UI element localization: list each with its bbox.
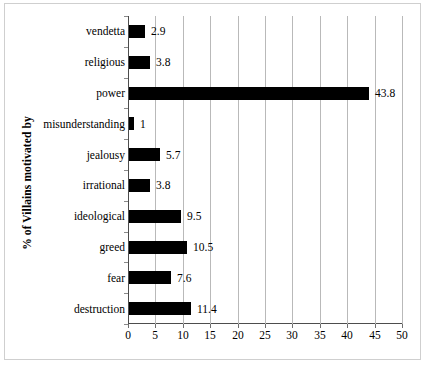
y-axis-tick	[124, 232, 128, 233]
bar-value-label: 1	[140, 118, 146, 130]
x-axis-tick	[210, 324, 211, 328]
x-axis-tick	[183, 324, 184, 328]
gridline	[210, 16, 211, 324]
x-axis-tick-label: 40	[341, 329, 353, 342]
category-label-greed: greed	[34, 241, 125, 253]
bar-value-label: 9.5	[187, 210, 201, 222]
x-axis-tick	[238, 324, 239, 328]
bar-value-label: 5.7	[166, 149, 180, 161]
bar	[129, 271, 171, 284]
x-axis-tick-label: 25	[259, 329, 271, 342]
bar-value-label: 2.9	[151, 25, 165, 37]
x-axis-tick-labels: 05101520253035404550	[128, 329, 403, 345]
x-axis-tick-label: 30	[286, 329, 298, 342]
x-axis-tick-label: 5	[152, 329, 158, 342]
x-axis-tick	[402, 324, 403, 328]
gridline	[347, 16, 348, 324]
y-axis-tick	[124, 47, 128, 48]
x-axis-tick	[320, 324, 321, 328]
gridline	[320, 16, 321, 324]
bar-value-label: 7.6	[177, 272, 191, 284]
category-label-religious: religious	[34, 56, 125, 68]
category-label-fear: fear	[34, 272, 125, 284]
x-axis-tick	[375, 324, 376, 328]
y-axis-tick	[124, 78, 128, 79]
x-axis-tick-label: 15	[204, 329, 216, 342]
bar-value-label: 3.8	[156, 179, 170, 191]
bar	[129, 25, 145, 38]
gridline	[265, 16, 266, 324]
y-axis-tick	[124, 170, 128, 171]
x-axis-tick-label: 20	[232, 329, 244, 342]
bar	[129, 241, 187, 254]
gridline	[292, 16, 293, 324]
bar	[129, 87, 369, 100]
x-axis-tick-label: 35	[314, 329, 326, 342]
x-axis-tick	[155, 324, 156, 328]
bar-value-label: 3.8	[156, 56, 170, 68]
y-axis-tick	[124, 16, 128, 17]
y-axis-tick	[124, 139, 128, 140]
bar	[129, 117, 134, 130]
category-label-destruction: destruction	[34, 303, 125, 315]
x-axis-tick	[292, 324, 293, 328]
category-axis-labels: vendettareligiouspowermisunderstandingje…	[34, 16, 125, 324]
category-label-ideological: ideological	[34, 210, 125, 222]
y-axis-tick	[124, 108, 128, 109]
y-axis-tick	[124, 293, 128, 294]
x-axis-tick-label: 50	[396, 329, 408, 342]
category-label-jealousy: jealousy	[34, 149, 125, 161]
category-label-vendetta: vendetta	[34, 25, 125, 37]
bar	[129, 148, 160, 161]
gridline	[238, 16, 239, 324]
y-axis-tick	[124, 201, 128, 202]
bar-chart-figure: % of Villains motivated by vendettarelig…	[0, 0, 425, 366]
bar-value-label: 43.8	[375, 87, 395, 99]
y-axis-tick	[124, 324, 128, 325]
x-axis-tick-label: 0	[125, 329, 131, 342]
plot-area: 2.93.843.815.73.89.510.57.611.4	[128, 16, 402, 324]
bar	[129, 210, 181, 223]
x-axis-tick	[347, 324, 348, 328]
x-axis-tick	[128, 324, 129, 328]
gridline	[402, 16, 403, 324]
category-label-misunderstanding: misunderstanding	[34, 118, 125, 130]
x-axis-tick-label: 45	[369, 329, 381, 342]
bar	[129, 56, 150, 69]
y-axis-tick	[124, 262, 128, 263]
category-label-power: power	[34, 87, 125, 99]
bar	[129, 302, 191, 315]
gridline	[375, 16, 376, 324]
bar-value-label: 11.4	[197, 303, 217, 315]
bar	[129, 179, 150, 192]
bar-value-label: 10.5	[193, 241, 213, 253]
x-axis-tick-label: 10	[177, 329, 189, 342]
x-axis-tick	[265, 324, 266, 328]
category-label-irrational: irrational	[34, 179, 125, 191]
